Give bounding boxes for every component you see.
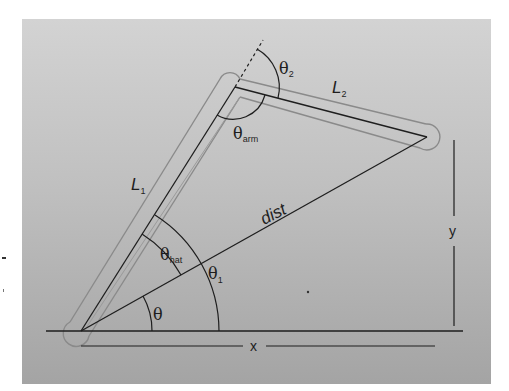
label-theta: θ (153, 305, 163, 324)
label-y: y (449, 223, 456, 239)
stray-dot (307, 291, 309, 293)
arm-kinematics-diagram: L1 L2 dist θ θhat θ1 θ2 θarm x y (0, 0, 509, 391)
diagram-panel (22, 19, 491, 384)
label-x: x (250, 338, 257, 354)
